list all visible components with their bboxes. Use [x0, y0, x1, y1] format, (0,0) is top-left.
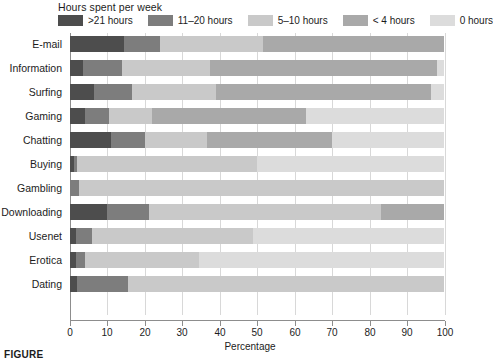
- x-axis-tick: [257, 321, 258, 326]
- x-axis-tick: [295, 321, 296, 326]
- bar-stack[interactable]: [70, 132, 444, 148]
- bar-segment[interactable]: [210, 60, 437, 76]
- bar-segment[interactable]: [70, 36, 124, 52]
- bar-segment[interactable]: [79, 180, 444, 196]
- legend-item[interactable]: 0 hours: [430, 15, 493, 26]
- y-axis-label: Gambling: [0, 180, 66, 196]
- y-axis-label: Surfing: [0, 84, 66, 100]
- bar-segment[interactable]: [70, 276, 77, 292]
- legend-title: Hours spent per week: [58, 1, 162, 13]
- bar-segment[interactable]: [199, 252, 444, 268]
- y-axis-label: Buying: [0, 156, 66, 172]
- bar-segment[interactable]: [207, 132, 332, 148]
- x-axis-tick-label: 80: [355, 327, 385, 338]
- bar-segment[interactable]: [381, 204, 445, 220]
- y-axis-label: Erotica: [0, 252, 66, 268]
- y-axis-label: E-mail: [0, 36, 66, 52]
- bar-segment[interactable]: [70, 204, 107, 220]
- x-axis-tick-label: 60: [280, 327, 310, 338]
- x-axis-tick: [407, 321, 408, 326]
- bar-segment[interactable]: [257, 156, 444, 172]
- legend-item-label: 11–20 hours: [178, 15, 233, 26]
- x-axis-tick-label: 90: [392, 327, 422, 338]
- bar-segment[interactable]: [128, 276, 444, 292]
- bar-stack[interactable]: [70, 252, 444, 268]
- bar-stack[interactable]: [70, 36, 444, 52]
- legend-item-label: < 4 hours: [373, 15, 415, 26]
- bar-segment[interactable]: [145, 132, 207, 148]
- bar-segment[interactable]: [70, 180, 79, 196]
- bar-segment[interactable]: [70, 132, 111, 148]
- legend-item-label: >21 hours: [88, 15, 133, 26]
- bar-segment[interactable]: [76, 228, 93, 244]
- bar-segment[interactable]: [431, 84, 444, 100]
- bar-segment[interactable]: [107, 204, 148, 220]
- bar-segment[interactable]: [149, 204, 381, 220]
- bar-segment[interactable]: [122, 60, 210, 76]
- x-axis-tick: [332, 321, 333, 326]
- bar-segment[interactable]: [160, 36, 263, 52]
- x-axis-tick: [220, 321, 221, 326]
- x-axis-title: Percentage: [0, 341, 454, 352]
- bar-segment[interactable]: [77, 276, 128, 292]
- bar-stack[interactable]: [70, 156, 444, 172]
- bar-segment[interactable]: [152, 108, 306, 124]
- y-axis-label: Downloading: [0, 204, 66, 220]
- bar-stack[interactable]: [70, 228, 444, 244]
- x-axis-tick: [445, 321, 446, 326]
- legend-item[interactable]: < 4 hours: [343, 15, 415, 26]
- bar-segment[interactable]: [77, 156, 257, 172]
- bar-segment[interactable]: [76, 252, 85, 268]
- bar-segment[interactable]: [70, 108, 85, 124]
- bar-stack[interactable]: [70, 180, 444, 196]
- gridline: [445, 33, 446, 315]
- bar-segment[interactable]: [94, 84, 131, 100]
- bar-segment[interactable]: [70, 60, 83, 76]
- legend-swatch-icon: [148, 15, 173, 26]
- bar-stack[interactable]: [70, 84, 444, 100]
- legend-item[interactable]: >21 hours: [58, 15, 133, 26]
- legend-item-label: 0 hours: [460, 15, 493, 26]
- bar-segment[interactable]: [111, 132, 145, 148]
- bar-stack[interactable]: [70, 108, 444, 124]
- x-axis-tick: [107, 321, 108, 326]
- bar-segment[interactable]: [85, 252, 199, 268]
- legend-swatch-icon: [343, 15, 368, 26]
- bar-stack[interactable]: [70, 276, 444, 292]
- bar-segment[interactable]: [132, 84, 216, 100]
- bar-segment[interactable]: [437, 60, 444, 76]
- bar-segment[interactable]: [216, 84, 431, 100]
- bar-segment[interactable]: [70, 84, 94, 100]
- bar-segment[interactable]: [263, 36, 445, 52]
- legend-swatch-icon: [248, 15, 273, 26]
- bar-segment[interactable]: [85, 108, 109, 124]
- x-axis-tick: [182, 321, 183, 326]
- x-axis-tick-label: 10: [92, 327, 122, 338]
- bar-segment[interactable]: [306, 108, 445, 124]
- legend-item[interactable]: 5–10 hours: [248, 15, 328, 26]
- chart-legend: >21 hours11–20 hours5–10 hours< 4 hours0…: [58, 15, 450, 26]
- legend-item[interactable]: 11–20 hours: [148, 15, 233, 26]
- bar-stack[interactable]: [70, 60, 444, 76]
- x-axis-tick-label: 30: [167, 327, 197, 338]
- x-axis-tick-label: 100: [430, 327, 460, 338]
- x-axis-tick-label: 70: [317, 327, 347, 338]
- y-axis-label: Chatting: [0, 132, 66, 148]
- bar-segment[interactable]: [83, 60, 122, 76]
- bar-segment[interactable]: [92, 228, 253, 244]
- bar-segment[interactable]: [253, 228, 444, 244]
- bar-stack[interactable]: [70, 204, 444, 220]
- x-axis-tick-label: 40: [205, 327, 235, 338]
- x-axis-tick-label: 50: [242, 327, 272, 338]
- legend-swatch-icon: [58, 15, 83, 26]
- y-axis-label: Information: [0, 60, 66, 76]
- bar-segment[interactable]: [109, 108, 152, 124]
- legend-swatch-icon: [430, 15, 455, 26]
- bar-segment[interactable]: [124, 36, 160, 52]
- x-axis-tick: [370, 321, 371, 326]
- y-axis-label: Dating: [0, 276, 66, 292]
- x-axis-tick: [70, 321, 71, 326]
- bar-segment[interactable]: [332, 132, 444, 148]
- x-axis-tick-label: 20: [130, 327, 160, 338]
